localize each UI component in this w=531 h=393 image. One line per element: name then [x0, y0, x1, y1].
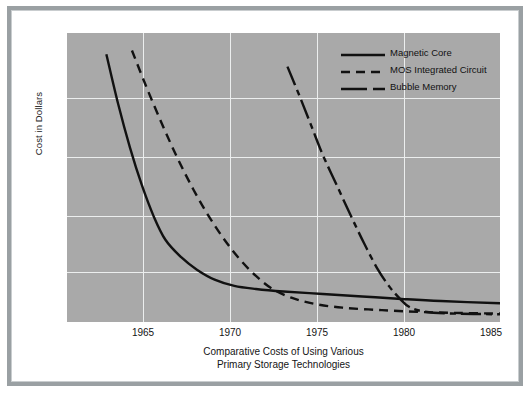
caption-line-1: Comparative Costs of Using Various — [67, 345, 500, 358]
chart-caption: Comparative Costs of Using Various Prima… — [67, 345, 500, 371]
chart-legend: Magnetic Core MOS Integrated Circuit Bub… — [341, 44, 521, 95]
legend-label-magnetic-core: Magnetic Core — [390, 47, 452, 58]
y-axis-title: Cost in Dollars — [33, 64, 44, 184]
legend-item-bubble-memory: Bubble Memory — [341, 78, 521, 95]
x-tick-label-1985: 1985 — [461, 328, 521, 338]
x-tick-label-1970: 1970 — [200, 328, 260, 338]
x-tick-label-1965: 1965 — [113, 328, 173, 338]
chart-page: Cost in Dollars .20 .15 .10 .05 1965 197… — [0, 0, 531, 393]
legend-item-mos-integrated-circuit: MOS Integrated Circuit — [341, 61, 521, 78]
chart-figure: Cost in Dollars .20 .15 .10 .05 1965 197… — [0, 0, 531, 393]
legend-label-bubble-memory: Bubble Memory — [390, 81, 457, 92]
legend-label-mos-integrated-circuit: MOS Integrated Circuit — [390, 64, 487, 75]
legend-item-magnetic-core: Magnetic Core — [341, 44, 521, 61]
legend-swatch-dash-dot-icon — [341, 81, 385, 93]
caption-line-2: Primary Storage Technologies — [67, 358, 500, 371]
x-tick-label-1980: 1980 — [374, 328, 434, 338]
legend-swatch-solid-icon — [341, 47, 385, 59]
series-line-bubble-memory — [287, 67, 500, 315]
x-tick-label-1975: 1975 — [287, 328, 347, 338]
legend-swatch-dashed-icon — [341, 64, 385, 76]
